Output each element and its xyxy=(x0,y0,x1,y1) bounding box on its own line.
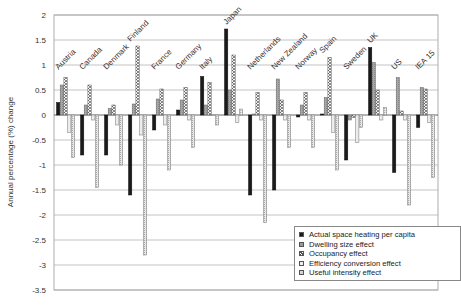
country-label: Spain xyxy=(318,34,339,55)
bar xyxy=(256,93,259,116)
bar xyxy=(260,115,263,120)
bar xyxy=(191,115,194,148)
bar xyxy=(393,115,396,173)
bar xyxy=(153,115,156,130)
bar xyxy=(215,115,218,125)
legend-label: Dwelling size effect xyxy=(309,240,374,249)
crosshatch-swatch-icon xyxy=(299,251,304,256)
bar xyxy=(428,115,431,123)
country-label: IEA 15 xyxy=(414,48,437,71)
bar xyxy=(376,90,379,115)
bar xyxy=(160,89,163,115)
bar xyxy=(404,115,407,120)
bar xyxy=(276,79,279,115)
legend-item-occupancy: Occupancy effect xyxy=(299,249,456,259)
bar xyxy=(225,29,228,115)
bar xyxy=(284,115,287,120)
country-label: Austria xyxy=(54,47,78,71)
y-tick-label: -2 xyxy=(39,211,47,220)
bar xyxy=(297,115,300,117)
bar xyxy=(140,115,143,135)
bar xyxy=(280,100,283,115)
bar xyxy=(352,115,355,118)
bar xyxy=(369,48,372,116)
bar xyxy=(311,115,314,148)
legend-label: Occupancy effect xyxy=(309,249,368,258)
bar xyxy=(129,115,132,195)
y-tick-label: 2 xyxy=(42,11,47,20)
bar xyxy=(332,115,335,133)
bar xyxy=(112,105,115,115)
light-grey-swatch-icon xyxy=(299,261,304,266)
bar xyxy=(348,115,351,120)
bar xyxy=(167,115,170,170)
bar xyxy=(420,88,423,116)
country-label: Sweden xyxy=(342,45,369,72)
bar xyxy=(64,78,67,116)
legend-item-actual: Actual space heating per capita xyxy=(299,230,456,240)
y-tick-label: -3 xyxy=(39,261,47,270)
y-tick-label: 1 xyxy=(42,61,47,70)
bar xyxy=(273,115,276,190)
bar xyxy=(68,115,71,133)
bar xyxy=(184,88,187,116)
legend-item-efficiency: Efficiency conversion effect xyxy=(299,259,456,269)
y-tick-label: 0.5 xyxy=(35,86,47,95)
bar xyxy=(335,115,338,170)
legend-item-dwelling: Dwelling size effect xyxy=(299,240,456,250)
bar xyxy=(359,115,362,128)
legend-label: Efficiency conversion effect xyxy=(309,259,401,268)
bar xyxy=(304,93,307,116)
y-tick-label: -3.5 xyxy=(32,286,46,295)
bar xyxy=(71,115,74,158)
bar xyxy=(236,115,239,123)
bar xyxy=(177,110,180,115)
grey-swatch-icon xyxy=(299,242,304,247)
bar xyxy=(372,63,375,116)
bar xyxy=(324,98,327,116)
bar xyxy=(417,115,420,128)
y-tick-label: -0.5 xyxy=(32,136,46,145)
bar xyxy=(263,115,266,223)
bar xyxy=(407,115,410,205)
dotted-swatch-icon xyxy=(299,270,304,275)
bar xyxy=(92,115,95,120)
legend: Actual space heating per capita Dwelling… xyxy=(294,226,461,281)
bar xyxy=(396,78,399,116)
bar xyxy=(208,83,211,116)
bar xyxy=(116,115,119,125)
bar xyxy=(345,115,348,160)
bar xyxy=(188,115,191,120)
bar xyxy=(105,115,108,155)
bar xyxy=(308,115,311,120)
country-label: UK xyxy=(366,30,381,45)
bar xyxy=(431,115,434,178)
bar xyxy=(119,115,122,165)
country-label: France xyxy=(150,47,174,71)
bar xyxy=(212,115,215,116)
y-axis-ticks: 21.510.50-0.5-1-1.5-2-2.5-3-3.5 xyxy=(32,11,46,295)
bar xyxy=(400,111,403,115)
bar xyxy=(239,109,242,115)
bar xyxy=(81,115,84,155)
country-label: Japan xyxy=(222,5,244,27)
bar xyxy=(60,85,63,115)
bar xyxy=(328,58,331,116)
legend-label: Actual space heating per capita xyxy=(309,230,415,239)
y-axis-label: Annual percentage (%) change xyxy=(6,96,15,207)
bar xyxy=(180,100,183,115)
bar xyxy=(136,46,139,115)
bar xyxy=(88,85,91,115)
y-tick-label: 1.5 xyxy=(35,36,47,45)
country-label: Denmark xyxy=(102,41,132,71)
bar xyxy=(84,105,87,115)
bar xyxy=(57,103,60,116)
bar xyxy=(132,104,135,115)
country-label: US xyxy=(390,57,404,71)
bar xyxy=(356,115,359,143)
y-tick-label: -2.5 xyxy=(32,236,46,245)
solid-black-swatch-icon xyxy=(299,232,304,237)
bar xyxy=(321,114,324,115)
bar xyxy=(424,89,427,115)
bar xyxy=(164,115,167,125)
